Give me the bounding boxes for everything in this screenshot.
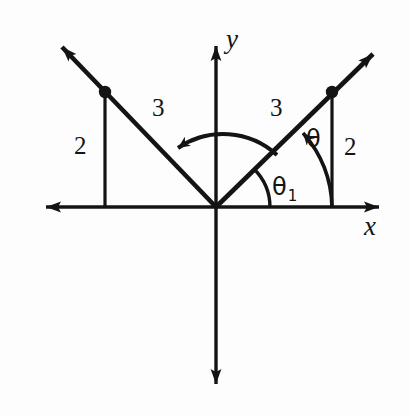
theta1-base: θ — [272, 173, 287, 201]
theta1-subscript: 1 — [287, 187, 298, 205]
theta1-label: θ1 — [272, 175, 297, 204]
supplement-arc — [178, 134, 277, 155]
theta-label: θ — [306, 127, 321, 151]
theta1-arc-path — [254, 169, 270, 207]
left-vector — [62, 47, 216, 207]
vector-diagram-figure: 3 3 2 2 θ θ1 y x — [0, 0, 410, 416]
right-magnitude-label: 3 — [270, 95, 283, 120]
supplement-arc-path — [178, 134, 277, 155]
theta1-arc — [254, 169, 270, 207]
left-component-label: 2 — [74, 133, 87, 158]
x-axis-label: x — [364, 213, 376, 240]
diagram-canvas — [0, 0, 410, 416]
right-component-label: 2 — [344, 134, 357, 159]
y-axis-label: y — [226, 26, 238, 53]
left-magnitude-label: 3 — [152, 95, 165, 120]
left-vector-ray — [62, 47, 216, 207]
